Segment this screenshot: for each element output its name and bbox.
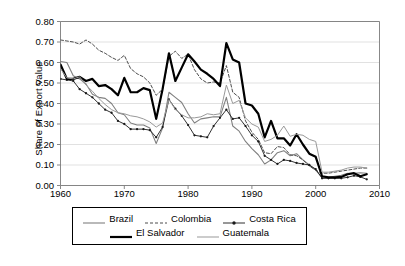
series-marker-costa-rica: [302, 163, 304, 165]
legend-label: El Salvador: [136, 228, 185, 238]
series-marker-costa-rica: [161, 126, 163, 128]
series-marker-costa-rica: [142, 128, 144, 130]
legend-label: Guatemala: [223, 228, 269, 238]
series-marker-costa-rica: [85, 92, 87, 94]
series-marker-costa-rica: [244, 125, 246, 127]
series-marker-costa-rica: [155, 136, 157, 138]
series-marker-costa-rica: [353, 175, 355, 177]
legend-item-colombia[interactable]: Colombia: [145, 214, 211, 224]
legend-line-solid-lightgray-icon: [197, 228, 219, 238]
series-marker-costa-rica: [98, 102, 100, 104]
series-marker-costa-rica: [276, 163, 278, 165]
series-marker-costa-rica: [206, 136, 208, 138]
grid-lines: [61, 22, 380, 186]
legend-row: El SalvadorGuatemala: [79, 226, 300, 240]
series-marker-costa-rica: [104, 109, 106, 111]
series-marker-costa-rica: [212, 125, 214, 127]
legend-label: Colombia: [171, 214, 211, 224]
series-marker-costa-rica: [264, 155, 266, 157]
series-marker-costa-rica: [238, 117, 240, 119]
series-marker-costa-rica: [219, 117, 221, 119]
series-marker-costa-rica: [130, 128, 132, 130]
legend-item-brazil[interactable]: Brazil: [83, 214, 133, 224]
series-marker-costa-rica: [283, 159, 285, 161]
legend-item-el-salvador[interactable]: El Salvador: [110, 228, 185, 238]
coffee-export-share-chart: Share of Export Value 0.000.100.200.300.…: [0, 0, 405, 266]
legend-label: Brazil: [109, 214, 133, 224]
series-marker-costa-rica: [117, 120, 119, 122]
series-marker-costa-rica: [295, 162, 297, 164]
series-marker-costa-rica: [232, 118, 234, 120]
series-marker-costa-rica: [366, 178, 368, 180]
legend-line-dashed-icon: [145, 214, 167, 224]
legend-label: Costa Rica: [249, 214, 295, 224]
series-marker-costa-rica: [136, 128, 138, 130]
series-marker-costa-rica: [257, 140, 259, 142]
chart-legend: BrazilColombiaCosta RicaEl SalvadorGuate…: [72, 207, 307, 245]
series-marker-costa-rica: [315, 168, 317, 170]
series-marker-costa-rica: [270, 159, 272, 161]
legend-row: BrazilColombiaCosta Rica: [79, 212, 300, 226]
series-line-guatemala: [61, 69, 367, 173]
series-marker-costa-rica: [149, 129, 151, 131]
series-marker-costa-rica: [72, 80, 74, 82]
legend-line-solid-gray-icon: [83, 214, 105, 224]
series-marker-costa-rica: [200, 135, 202, 137]
legend-line-thick-black-icon: [110, 228, 132, 238]
series-marker-costa-rica: [187, 124, 189, 126]
series-marker-costa-rica: [308, 164, 310, 166]
series-line-colombia: [61, 40, 367, 173]
legend-item-guatemala[interactable]: Guatemala: [197, 228, 269, 238]
legend-item-costa-rica[interactable]: Costa Rica: [223, 214, 295, 224]
series-marker-costa-rica: [59, 78, 61, 80]
series-marker-costa-rica: [123, 123, 125, 125]
series-marker-costa-rica: [78, 88, 80, 90]
series-marker-costa-rica: [346, 176, 348, 178]
series-marker-costa-rica: [193, 134, 195, 136]
series-marker-costa-rica: [289, 160, 291, 162]
series-marker-costa-rica: [225, 109, 227, 111]
series-marker-costa-rica: [251, 134, 253, 136]
legend-line-marker-icon: [223, 214, 245, 224]
series-marker-costa-rica: [110, 112, 112, 114]
series-marker-costa-rica: [91, 96, 93, 98]
data-series-layer: [59, 40, 368, 181]
